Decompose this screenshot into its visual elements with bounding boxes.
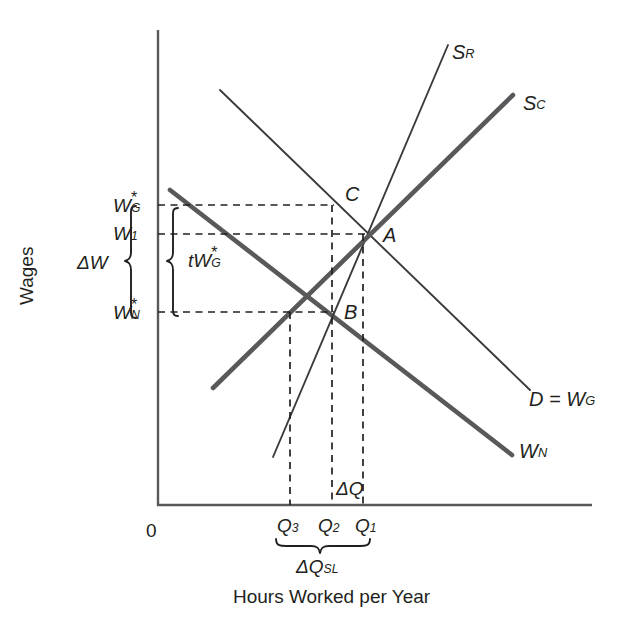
curve-label-sr: SR <box>452 42 465 62</box>
point-label-a: A <box>383 225 396 245</box>
curve-label-wn-w: W <box>519 440 538 462</box>
curve-label-sr-s: S <box>452 41 465 63</box>
x-tick-q3-sub: 3 <box>292 522 299 534</box>
x-tick-q2: Q2 <box>318 516 333 535</box>
y-tick-wg-star-sub: G <box>131 202 140 214</box>
x-axis-title: Hours Worked per Year <box>233 587 430 606</box>
curve-label-demand-w: W <box>566 388 585 410</box>
curve-label-demand-d: D = <box>529 388 566 410</box>
curve-label-demand: D = WG <box>529 389 585 409</box>
t-wg-star-w: W <box>193 250 211 271</box>
point-label-c: C <box>345 184 359 204</box>
curve-label-wn: WN <box>519 441 538 461</box>
curve-label-sc-sub: C <box>536 99 545 112</box>
delta-q-sl-main: ΔQ <box>296 556 324 577</box>
delta-w-label: ΔW <box>77 253 108 272</box>
curve-supply-sc <box>213 95 513 388</box>
y-tick-wn-star: W*N <box>113 303 131 322</box>
y-tick-wn-star-w: W <box>113 302 131 323</box>
point-label-b: B <box>344 302 357 322</box>
delta-q-label: ΔQ <box>336 479 364 498</box>
brace-t-wg-star <box>167 208 178 316</box>
y-tick-wg-star-w: W <box>113 195 131 216</box>
braces-group <box>125 206 370 553</box>
y-tick-w1: W1 <box>113 224 131 243</box>
y-tick-wn-star-sub: N <box>131 309 140 321</box>
curve-label-sc-s: S <box>523 92 536 114</box>
t-wg-star-sub: G <box>211 257 220 269</box>
y-tick-w1-sub: 1 <box>131 230 138 242</box>
x-tick-q3: Q3 <box>277 516 292 535</box>
curve-demand-wg <box>220 90 530 390</box>
x-tick-q1-q: Q <box>355 515 370 536</box>
y-tick-wg-star: W*G <box>113 196 131 215</box>
x-tick-q2-sub: 2 <box>333 522 340 534</box>
delta-q-sl-label: ΔQSL <box>296 557 324 576</box>
curves-group <box>170 45 530 457</box>
x-tick-q2-q: Q <box>318 515 333 536</box>
curve-label-sc: SC <box>523 93 536 113</box>
curve-label-demand-sub: G <box>585 395 595 408</box>
brace-delta-q-sl <box>276 539 370 553</box>
x-tick-q3-q: Q <box>277 515 292 536</box>
x-tick-q1: Q1 <box>355 516 370 535</box>
economics-diagram: Wages Hours Worked per Year 0 ΔW tW*G W*… <box>0 0 635 624</box>
x-tick-q1-sub: 1 <box>370 522 377 534</box>
curve-supply-sr <box>273 45 448 457</box>
delta-q-sl-sub: SL <box>324 563 339 575</box>
curve-label-sr-sub: R <box>465 48 474 61</box>
curve-label-wn-sub: N <box>538 447 547 460</box>
origin-label: 0 <box>146 521 157 540</box>
y-axis-title: Wages <box>17 247 36 305</box>
t-wg-star-label: tW*G <box>188 251 211 270</box>
y-tick-w1-w: W <box>113 223 131 244</box>
